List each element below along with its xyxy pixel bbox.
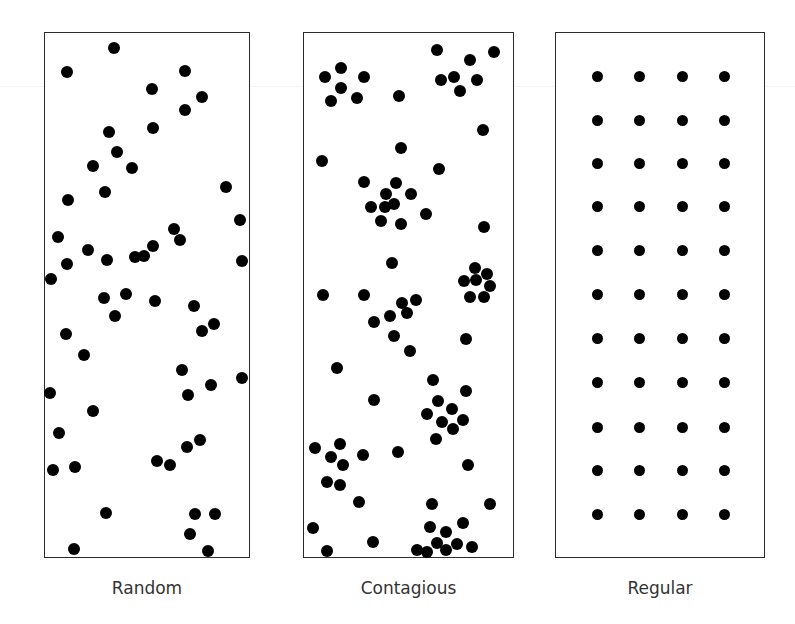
contagious-dot [337, 459, 349, 471]
regular-dot [719, 71, 730, 82]
random-dot [179, 104, 191, 116]
contagious-dot [431, 44, 443, 56]
random-dot [103, 126, 115, 138]
contagious-dot [421, 408, 433, 420]
regular-dot [592, 509, 603, 520]
contagious-dot [375, 215, 387, 227]
regular-dot [719, 158, 730, 169]
random-dot [60, 328, 72, 340]
contagious-dot [477, 124, 489, 136]
contagious-dot [421, 546, 433, 558]
regular-dot [592, 158, 603, 169]
contagious-dot [351, 92, 363, 104]
contagious-dot [420, 208, 432, 220]
contagious-dot [325, 95, 337, 107]
regular-dot [592, 465, 603, 476]
random-dot [87, 160, 99, 172]
contagious-dot [367, 536, 379, 548]
regular-dot [677, 422, 688, 433]
contagious-dot [447, 423, 459, 435]
contagious-dot [390, 177, 402, 189]
regular-dot [719, 115, 730, 126]
regular-dot [677, 115, 688, 126]
regular-dot [719, 245, 730, 256]
contagious-dot [386, 257, 398, 269]
contagious-dot [405, 188, 417, 200]
regular-dot [634, 201, 645, 212]
random-dot [69, 461, 81, 473]
contagious-dot [440, 544, 452, 556]
regular-dot [719, 422, 730, 433]
contagious-dot [317, 289, 329, 301]
random-dot [44, 387, 56, 399]
random-dot [52, 231, 64, 243]
random-dot [196, 325, 208, 337]
contagious-dot [488, 46, 500, 58]
contagious-dot [469, 262, 481, 274]
regular-caption: Regular [555, 578, 765, 598]
contagious-dot [462, 459, 474, 471]
contagious-dot [388, 198, 400, 210]
contagious-dot [458, 275, 470, 287]
random-distribution-panel [44, 32, 250, 558]
contagious-dot [316, 155, 328, 167]
regular-dot [719, 289, 730, 300]
contagious-dot [321, 476, 333, 488]
regular-dot [677, 377, 688, 388]
contagious-dot [427, 374, 439, 386]
contagious-dot [325, 451, 337, 463]
random-dot [174, 234, 186, 246]
random-dot [189, 508, 201, 520]
regular-dot [677, 333, 688, 344]
regular-distribution-panel [555, 32, 765, 558]
random-caption: Random [42, 578, 252, 598]
regular-dot [634, 509, 645, 520]
contagious-dot [393, 90, 405, 102]
contagious-dot [334, 479, 346, 491]
regular-dot [677, 201, 688, 212]
contagious-dot [484, 280, 496, 292]
regular-dot [634, 377, 645, 388]
contagious-dot [368, 394, 380, 406]
contagious-dot [395, 142, 407, 154]
random-dot [208, 318, 220, 330]
regular-dot [677, 158, 688, 169]
contagious-dot [309, 442, 321, 454]
contagious-dot [481, 268, 493, 280]
contagious-dot [471, 74, 483, 86]
regular-dot [634, 71, 645, 82]
random-dot [188, 300, 200, 312]
random-dot [126, 162, 138, 174]
random-dot [179, 65, 191, 77]
random-dot [45, 273, 57, 285]
contagious-dot [430, 433, 442, 445]
contagious-dot [358, 71, 370, 83]
contagious-dot [470, 274, 482, 286]
regular-dot [677, 289, 688, 300]
contagious-dot [388, 330, 400, 342]
contagious-dot [335, 62, 347, 74]
regular-dot [719, 465, 730, 476]
random-dot [209, 508, 221, 520]
contagious-dot [464, 54, 476, 66]
random-dot [98, 292, 110, 304]
regular-dot [592, 289, 603, 300]
random-dot [61, 66, 73, 78]
regular-dot [592, 245, 603, 256]
random-dot [182, 389, 194, 401]
random-dot [62, 194, 74, 206]
contagious-dot [331, 362, 343, 374]
regular-dot [677, 465, 688, 476]
contagious-dot [451, 538, 463, 550]
random-dot [99, 186, 111, 198]
regular-dot [634, 333, 645, 344]
random-dot [82, 244, 94, 256]
contagious-dot [457, 414, 469, 426]
contagious-dot [357, 449, 369, 461]
random-dot [147, 240, 159, 252]
regular-dot [719, 377, 730, 388]
random-dot [164, 459, 176, 471]
random-dot [236, 255, 248, 267]
contagious-dot [395, 218, 407, 230]
contagious-dot [392, 446, 404, 458]
